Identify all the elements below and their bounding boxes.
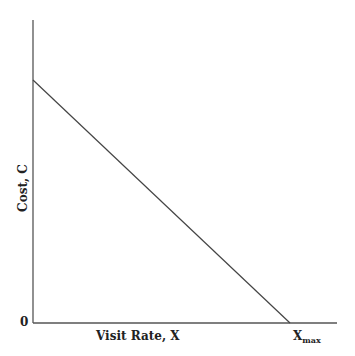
chart-canvas — [0, 0, 355, 356]
xmax-label: Xmax — [293, 329, 321, 345]
x-axis-label: Visit Rate, X — [96, 329, 180, 343]
cost-line — [33, 80, 290, 323]
xmax-sub: max — [302, 335, 320, 345]
xmax-main: X — [293, 329, 302, 343]
origin-label: 0 — [20, 315, 28, 329]
y-axis-label: Cost, C — [16, 158, 30, 218]
